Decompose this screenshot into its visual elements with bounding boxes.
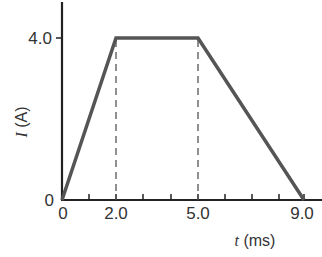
x-tick-label-5: 5.0 [186,204,210,223]
current-line [62,38,304,200]
x-tick-label-9: 9.0 [290,204,314,223]
x-tick-label-2: 2.0 [104,204,128,223]
y-tick-label-0: 0 [45,191,54,210]
x-tick-label-0: 0 [58,204,67,223]
x-axis-label: t (ms) [235,232,276,249]
current-time-graph: 4.0 0 0 2.0 5.0 9.0 t (ms) I (A) [0,0,322,257]
y-axis-label: I (A) [13,106,30,138]
y-tick-label-4: 4.0 [28,29,52,48]
